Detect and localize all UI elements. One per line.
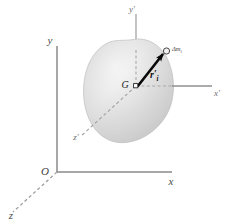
rigid-body [84, 39, 174, 143]
figure-root: y x z O [0, 0, 232, 220]
origin-label-O: O [41, 165, 49, 177]
axis-label-y: y [47, 34, 53, 46]
rigid-body-diagram: y x z O [0, 0, 232, 220]
rigid-body-shading-overlay [84, 39, 174, 143]
axis-label-z: z [8, 209, 14, 220]
axis-z-line [13, 172, 57, 212]
center-of-mass-marker [134, 84, 138, 88]
mass-element-label: Δmi [171, 45, 183, 54]
axis-label-z-prime: z′ [72, 132, 79, 142]
center-of-mass-label: G [121, 79, 128, 90]
axis-label-x: x [168, 175, 174, 187]
axis-label-x-prime: x′ [213, 88, 220, 98]
axis-label-y-prime: y′ [128, 4, 135, 14]
mass-element-marker [163, 48, 169, 54]
